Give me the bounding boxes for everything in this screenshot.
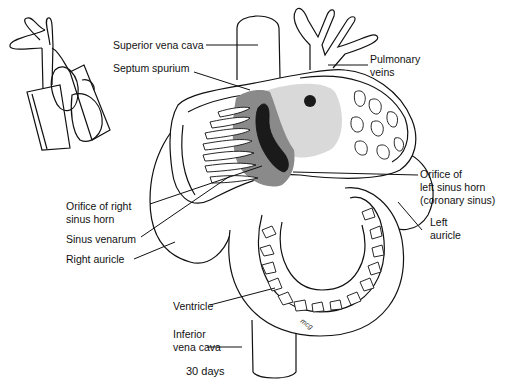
pulmonary-vein-orifice bbox=[304, 95, 316, 107]
label-left-auricle-1: Left bbox=[430, 216, 448, 229]
label-orifice-right-1: Orifice of right bbox=[66, 200, 131, 213]
label-orifice-right-2: sinus horn bbox=[66, 213, 114, 226]
label-orifice-left-1: Orifice of bbox=[420, 168, 462, 181]
label-pulmonary-veins-1: Pulmonary bbox=[370, 53, 420, 66]
label-right-auricle: Right auricle bbox=[66, 253, 124, 266]
label-ventricle: Ventricle bbox=[173, 300, 213, 313]
figure-caption: 30 days bbox=[186, 365, 225, 378]
label-orifice-left-2: left sinus horn bbox=[420, 181, 485, 194]
label-left-auricle-2: auricle bbox=[430, 229, 461, 242]
label-superior-vena-cava: Superior vena cava bbox=[113, 39, 203, 52]
label-inferior-vena-cava-1: Inferior bbox=[173, 328, 206, 341]
pulmonary-veins bbox=[294, 8, 378, 70]
label-pulmonary-veins-2: veins bbox=[370, 66, 395, 79]
inset-orientation-icon bbox=[10, 18, 110, 150]
label-sinus-venarum: Sinus venarum bbox=[66, 233, 136, 246]
superior-vena-cava bbox=[237, 16, 280, 80]
label-inferior-vena-cava-2: vena cava bbox=[173, 341, 221, 354]
label-septum-spurium: Septum spurium bbox=[113, 62, 189, 75]
label-orifice-left-3: (coronary sinus) bbox=[420, 194, 495, 207]
